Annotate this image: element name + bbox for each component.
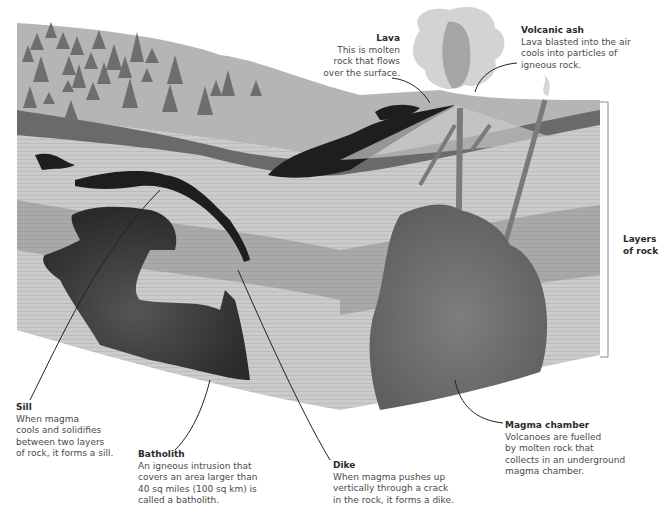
label-volcanic-ash: Volcanic ash Lava blasted into the air c…	[521, 25, 651, 71]
label-batholith-title: Batholith	[138, 449, 288, 461]
layers-bracket	[600, 102, 608, 357]
label-layers-of-rock: Layers of rock	[623, 234, 667, 257]
ash-cloud	[413, 7, 504, 89]
label-lava-body: This is molten rock that flows over the …	[296, 45, 400, 80]
steam-plume	[543, 75, 549, 96]
label-magma-chamber: Magma chamber Volcanoes are fuelled by m…	[505, 420, 655, 478]
label-dike: Dike When magma pushes up vertically thr…	[333, 460, 503, 506]
label-volcanic-ash-title: Volcanic ash	[521, 25, 651, 37]
label-batholith: Batholith An igneous intrusion that cove…	[138, 449, 288, 507]
label-magma-chamber-body: Volcanoes are fuelled by molten rock tha…	[505, 432, 655, 478]
label-sill-title: Sill	[16, 402, 136, 414]
label-lava: Lava This is molten rock that flows over…	[296, 33, 400, 79]
label-sill-body: When magma cools and solidifies between …	[16, 414, 136, 460]
label-sill: Sill When magma cools and solidifies bet…	[16, 402, 136, 460]
label-magma-chamber-title: Magma chamber	[505, 420, 655, 432]
label-lava-title: Lava	[296, 33, 400, 45]
label-batholith-body: An igneous intrusion that covers an area…	[138, 461, 288, 507]
label-dike-body: When magma pushes up vertically through …	[333, 472, 503, 507]
label-dike-title: Dike	[333, 460, 503, 472]
label-volcanic-ash-body: Lava blasted into the air cools into par…	[521, 37, 651, 72]
